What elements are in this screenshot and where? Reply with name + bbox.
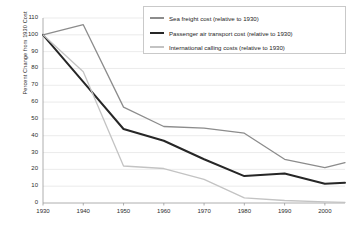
legend-item-2[interactable]: International calling costs (relative to… [150,41,285,53]
legend-line-swatch [150,46,164,47]
series-line-1 [43,35,345,184]
legend-item-1[interactable]: Passenger air transport cost (relative t… [150,27,293,39]
legend-line-swatch [150,17,164,18]
legend-label: Sea freight cost (relative to 1930) [169,15,259,22]
legend[interactable]: Sea freight cost (relative to 1930)Passe… [143,6,346,54]
legend-label: Passenger air transport cost (relative t… [169,30,293,37]
line-chart: Percent Change from 1930 Cost 0102030405… [0,0,349,231]
legend-label: International calling costs (relative to… [169,44,285,51]
legend-item-0[interactable]: Sea freight cost (relative to 1930) [150,12,259,24]
legend-line-swatch [150,32,164,34]
